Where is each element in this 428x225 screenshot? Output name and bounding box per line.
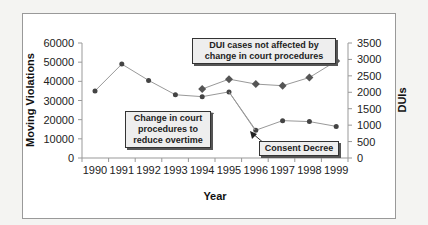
- y-tick-label-left: 40000: [43, 75, 74, 87]
- x-axis-label: Year: [203, 190, 227, 202]
- x-tick-label: 1996: [244, 164, 268, 176]
- y-tick-label-left: 30000: [43, 95, 74, 107]
- y-tick-label-left: 10000: [43, 133, 74, 145]
- data-point-diamond: [252, 80, 260, 88]
- x-tick-label: 1993: [163, 164, 187, 176]
- y-tick-label-left: 50000: [43, 56, 74, 68]
- chart: 0100002000030000400005000060000050010001…: [0, 0, 428, 225]
- y-tick-label-right: 1500: [357, 103, 381, 115]
- data-point-circle: [307, 119, 312, 124]
- data-point-diamond: [198, 85, 206, 93]
- x-tick-label: 1995: [217, 164, 241, 176]
- y-tick-label-left: 0: [68, 152, 74, 164]
- x-tick-label: 1992: [136, 164, 160, 176]
- data-point-diamond: [225, 75, 233, 83]
- data-point-diamond: [305, 74, 313, 82]
- x-tick-label: 1999: [324, 164, 348, 176]
- y-tick-label-left: 20000: [43, 114, 74, 126]
- data-point-circle: [173, 92, 178, 97]
- x-tick-label: 1991: [110, 164, 134, 176]
- y-tick-label-left: 60000: [43, 37, 74, 49]
- x-tick-label: 1994: [190, 164, 214, 176]
- y-axis-label-right: DUIs: [396, 87, 408, 112]
- y-tick-label-right: 1000: [357, 119, 381, 131]
- annotation-court: Change in court procedures to reduce ove…: [125, 111, 211, 148]
- x-tick-label: 1990: [83, 164, 107, 176]
- data-point-circle: [200, 94, 205, 99]
- x-tick-label: 1997: [270, 164, 294, 176]
- y-tick-label-right: 3500: [357, 37, 381, 49]
- y-axis-label-left: Moving Violations: [24, 53, 36, 147]
- y-tick-label-right: 3000: [357, 53, 381, 65]
- data-point-circle: [227, 89, 232, 94]
- data-point-circle: [119, 62, 124, 67]
- series-line-1: [202, 61, 336, 89]
- data-point-diamond: [279, 82, 287, 90]
- annotation-consent: Consent Decree: [259, 141, 339, 156]
- drop-line: [229, 92, 255, 130]
- y-tick-label-right: 2000: [357, 86, 381, 98]
- data-point-circle: [280, 118, 285, 123]
- data-point-circle: [93, 88, 98, 93]
- y-tick-label-right: 0: [357, 152, 363, 164]
- y-tick-label-right: 500: [357, 136, 375, 148]
- annotation-dui: DUI cases not affected by change in cour…: [192, 38, 336, 64]
- y-tick-label-right: 2500: [357, 70, 381, 82]
- x-tick-label: 1998: [297, 164, 321, 176]
- data-point-circle: [334, 124, 339, 129]
- data-point-circle: [146, 78, 151, 83]
